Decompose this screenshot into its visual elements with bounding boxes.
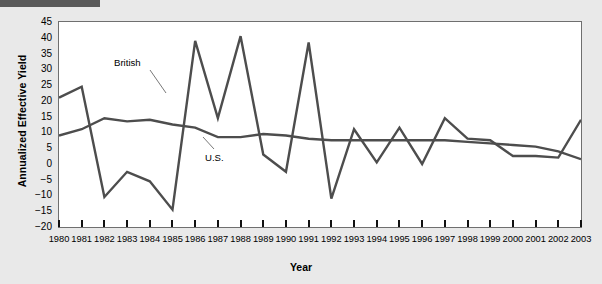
annotation-leader-lines — [0, 0, 602, 284]
series-label-british: British — [114, 57, 141, 68]
x-axis-title: Year — [0, 261, 602, 273]
chart-figure: Annualized Effective Yield 4540353025201… — [0, 0, 602, 284]
leader-line — [203, 137, 214, 149]
leader-line — [150, 70, 166, 93]
series-label-u-s: U.S. — [205, 152, 224, 163]
